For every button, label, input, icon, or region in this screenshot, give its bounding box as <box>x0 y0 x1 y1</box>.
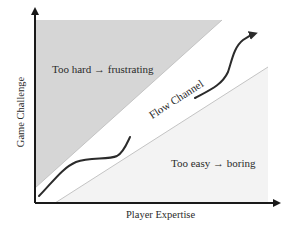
too-hard-label: Too hard → frustrating <box>52 63 154 75</box>
too-easy-label: Too easy → boring <box>171 157 255 169</box>
y-axis-label: Game Challenge <box>15 77 26 147</box>
x-axis-label: Player Expertise <box>126 209 195 220</box>
flow-channel-diagram: Too hard → frustrating Flow Channel Too … <box>0 0 299 230</box>
